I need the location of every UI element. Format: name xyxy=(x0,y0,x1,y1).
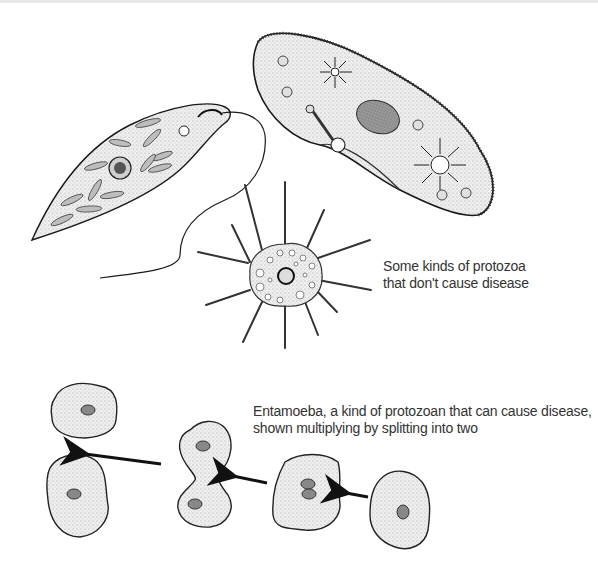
entamoeba-dividing xyxy=(178,421,231,527)
caption-line: Some kinds of protozoa xyxy=(383,258,529,275)
paramecium xyxy=(254,33,493,215)
heliozoan xyxy=(198,182,371,348)
caption-line: that don't cause disease xyxy=(383,275,529,292)
entamoeba-nucleus-splitting xyxy=(273,455,340,531)
caption-entamoeba: Entamoeba, a kind of protozoan that can … xyxy=(253,403,592,437)
caption-line: Entamoeba, a kind of protozoan that can … xyxy=(253,403,592,420)
caption-non-disease-protozoa: Some kinds of protozoa that don't cause … xyxy=(383,258,529,292)
caption-line: shown multiplying by splitting into two xyxy=(253,420,592,437)
entamoeba-daughter-bottom xyxy=(47,455,108,537)
entamoeba-single xyxy=(370,471,430,548)
euglena xyxy=(32,104,265,278)
arrow-icon xyxy=(346,493,368,497)
arrow-icon xyxy=(233,476,267,483)
entamoeba-daughter-top xyxy=(51,383,117,438)
